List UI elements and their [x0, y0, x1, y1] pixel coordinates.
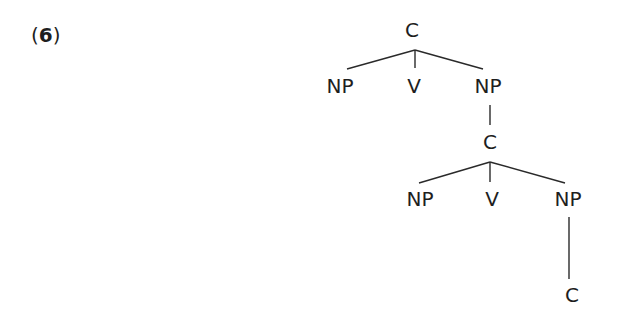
node-np2: NP: [474, 76, 501, 96]
node-v2: V: [485, 189, 499, 209]
node-c1: C: [405, 20, 419, 40]
node-np1: NP: [326, 76, 353, 96]
edge-c2-np4: [490, 162, 565, 183]
edge-c2-np3: [419, 162, 490, 183]
node-np4: NP: [554, 189, 581, 209]
node-c3: C: [565, 285, 579, 305]
tree-edges: [0, 0, 617, 317]
edge-c1-np2: [415, 50, 483, 69]
node-np3: NP: [406, 189, 433, 209]
node-c2: C: [483, 132, 497, 152]
node-v1: V: [407, 76, 421, 96]
edge-c1-np1: [347, 50, 415, 69]
